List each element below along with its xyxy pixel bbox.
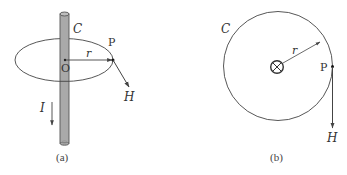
radius-label-r: r (292, 44, 298, 57)
curve-label-c: C (221, 22, 230, 36)
figure-a: O r P H C I (a) (15, 12, 135, 164)
point-label-p: P (108, 36, 116, 49)
point-label-p: P (320, 61, 328, 74)
field-label-h: H (123, 90, 135, 104)
radius-label-r: r (86, 47, 92, 60)
caption-b: (b) (270, 151, 283, 164)
field-label-h: H (326, 131, 338, 145)
center-label-o: O (61, 62, 70, 75)
curve-label-c: C (73, 22, 82, 36)
conductor-rod (60, 12, 69, 145)
current-into-page-icon (271, 61, 284, 74)
current-label-i: I (39, 101, 45, 115)
center-point-o (64, 59, 66, 61)
field-arrow-h (113, 60, 129, 87)
diagram-canvas: O r P H C I (a) r C P (0, 0, 347, 175)
figure-b: r C P H (b) (221, 12, 338, 165)
radius-arrow-r (283, 42, 320, 63)
caption-a: (a) (56, 151, 69, 164)
